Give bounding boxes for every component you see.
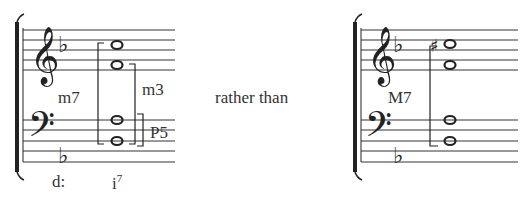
left-staff-graphic: 𝄞 ♭ 𝄢 ♭ xyxy=(0,0,200,200)
bass-clef-icon: 𝄢 xyxy=(365,104,392,153)
flat-icon: ♭ xyxy=(58,32,68,57)
interval-label-m7: m7 xyxy=(58,88,80,108)
interval-label-m3: m3 xyxy=(142,80,164,100)
connector-text: rather than xyxy=(215,88,288,108)
analysis-key: d: xyxy=(52,172,65,192)
flat-icon: ♭ xyxy=(393,143,403,168)
right-staff-graphic: 𝄞 ♭ 𝄢 ♭ ♯ xyxy=(340,0,532,200)
left-grand-staff: 𝄞 ♭ 𝄢 ♭ m7 m3 P5 d: i7 xyxy=(0,0,200,200)
interval-label-p5: P5 xyxy=(150,123,168,143)
flat-icon: ♭ xyxy=(58,143,68,168)
treble-clef-icon: 𝄞 xyxy=(30,26,60,87)
flat-icon: ♭ xyxy=(393,32,403,57)
bass-clef-icon: 𝄢 xyxy=(28,104,55,153)
analysis-chord: i7 xyxy=(112,172,122,194)
interval-label-M7: M7 xyxy=(388,88,412,108)
right-grand-staff: 𝄞 ♭ 𝄢 ♭ ♯ M7 xyxy=(340,0,532,200)
